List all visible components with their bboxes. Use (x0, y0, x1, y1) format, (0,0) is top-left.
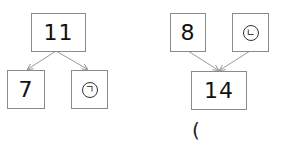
box-top-unknown-b: ㄴ (232, 13, 269, 52)
answer-blank-paren: ( (192, 118, 200, 142)
box-bottom-unknown-a: ㄱ (71, 70, 108, 109)
box-top-11: 11 (31, 13, 86, 52)
arrow-11-to-a (56, 51, 87, 69)
arrow-8-to-14 (188, 51, 218, 70)
box-top-8: 8 (170, 13, 206, 52)
number-7: 7 (19, 77, 34, 102)
number-14: 14 (204, 78, 234, 103)
number-8: 8 (181, 20, 196, 45)
circled-giyeok-icon: ㄱ (82, 82, 98, 98)
box-bottom-7: 7 (7, 70, 45, 109)
circled-nieun-icon: ㄴ (243, 25, 259, 41)
box-bottom-14: 14 (191, 71, 247, 110)
arrow-11-to-7 (28, 51, 56, 69)
number-11: 11 (44, 20, 74, 45)
arrow-b-to-14 (220, 51, 250, 70)
